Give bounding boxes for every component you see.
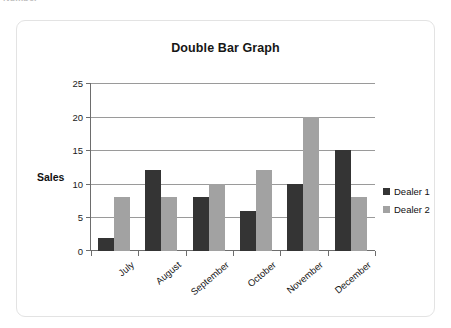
chart-card: Double Bar Graph Sales 0510152025 JulyAu… — [16, 20, 435, 317]
legend-swatch-icon — [383, 206, 390, 213]
y-axis-title: Sales — [37, 171, 64, 183]
chart-legend: Dealer 1Dealer 2 — [383, 186, 430, 222]
chart-title: Double Bar Graph — [17, 41, 434, 55]
y-tick-label-25: 25 — [72, 78, 83, 89]
legend-item[interactable]: Dealer 2 — [383, 204, 430, 215]
y-tick-label-0: 0 — [78, 246, 83, 257]
bar-group — [138, 83, 185, 251]
bar-group — [186, 83, 233, 251]
bar[interactable] — [303, 117, 319, 251]
y-tick-label-20: 20 — [72, 111, 83, 122]
legend-label: Dealer 2 — [394, 204, 430, 215]
y-tick-label-5: 5 — [78, 212, 83, 223]
clipped-top-text: Number — [3, 0, 38, 3]
bar-group — [233, 83, 280, 251]
bar[interactable] — [114, 197, 130, 251]
bar-group — [328, 83, 375, 251]
bar-group — [91, 83, 138, 251]
plot-area: 0510152025 JulyAugustSeptemberOctoberNov… — [91, 83, 375, 251]
bar[interactable] — [209, 184, 225, 251]
bar[interactable] — [161, 197, 177, 251]
y-tick-label-10: 10 — [72, 178, 83, 189]
legend-swatch-icon — [383, 188, 390, 195]
bar[interactable] — [145, 170, 161, 251]
x-tick-label: July — [129, 248, 149, 267]
legend-item[interactable]: Dealer 1 — [383, 186, 430, 197]
x-tick-mark — [91, 251, 92, 256]
legend-label: Dealer 1 — [394, 186, 430, 197]
y-tick-label-15: 15 — [72, 145, 83, 156]
bar[interactable] — [98, 238, 114, 251]
bar-group — [280, 83, 327, 251]
